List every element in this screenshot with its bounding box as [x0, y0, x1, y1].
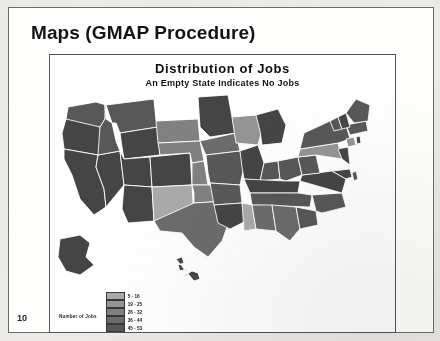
- legend-items: 5 - 1619 - 2526 - 3236 - 4445 - 5359 - 1…: [106, 292, 158, 333]
- legend-item: 45 - 53: [106, 324, 145, 332]
- legend-item: 5 - 16: [106, 292, 145, 300]
- legend-item: 26 - 32: [106, 308, 145, 316]
- chart-title: Distribution of Jobs: [50, 61, 395, 76]
- chart-subtitle: An Empty State Indicates No Jobs: [50, 78, 395, 88]
- legend-label: 5 - 16: [128, 294, 140, 299]
- page-title: Maps (GMAP Procedure): [31, 22, 256, 44]
- presentation-slide: Maps (GMAP Procedure) 10 Distribution of…: [8, 7, 434, 333]
- map-state-sd: South Dakota: [156, 119, 200, 143]
- map-state-mn: Minnesota: [198, 95, 236, 137]
- map-state-ks: Kansas: [192, 161, 208, 185]
- legend-title: Number of Jobs: [59, 314, 97, 319]
- map-state-ky: Kentucky: [244, 179, 300, 193]
- legend-swatch: [106, 292, 125, 300]
- map-state-ri: Rhode Island: [356, 136, 361, 144]
- map-state-il: Illinois: [240, 145, 264, 181]
- map-state-de: Delaware: [352, 171, 358, 181]
- map-state-hi: Hawaii: [176, 257, 200, 281]
- map-state-nd: North Dakota: [154, 97, 198, 121]
- legend-item: 36 - 44: [106, 316, 145, 324]
- scanned-page: Maps (GMAP Procedure) 10 Distribution of…: [0, 0, 440, 341]
- legend-label: 19 - 25: [128, 302, 142, 307]
- map-state-co: Colorado: [150, 153, 192, 187]
- legend-label: 26 - 32: [128, 310, 142, 315]
- legend-label: 36 - 44: [128, 318, 142, 323]
- map-state-az: Arizona: [122, 185, 154, 223]
- legend-swatch: [106, 332, 125, 333]
- states-layer: WashingtonOregonCaliforniaNevadaIdahoMon…: [58, 95, 370, 281]
- us-map-svg: WashingtonOregonCaliforniaNevadaIdahoMon…: [50, 89, 395, 297]
- legend-swatch: [106, 308, 125, 316]
- map-state-ct: Connecticut: [346, 137, 356, 147]
- map-state-ak: Alaska: [58, 235, 94, 275]
- map-state-me: Maine: [346, 99, 370, 123]
- legend-swatch: [106, 324, 125, 332]
- map-state-ar: Arkansas: [210, 183, 242, 205]
- map-state-fl: Florida: [290, 229, 320, 275]
- map-state-wy: Wyoming: [120, 127, 160, 159]
- legend-item: 59 - 107: [106, 332, 145, 333]
- map-state-nc: North Carolina: [312, 193, 346, 213]
- map-state-mo: Missouri: [206, 151, 244, 185]
- map-state-sc: South Carolina: [296, 207, 318, 229]
- legend-swatch: [106, 316, 125, 324]
- legend-swatch: [106, 300, 125, 308]
- map-state-wv: West Virginia: [298, 155, 320, 175]
- map-state-mi: Michigan: [256, 109, 286, 145]
- map-legend: Number of Jobs 5 - 1619 - 2526 - 3236 - …: [50, 309, 395, 323]
- slide-number: 10: [17, 313, 27, 323]
- legend-item: 19 - 25: [106, 300, 145, 308]
- chart-container: Distribution of Jobs An Empty State Indi…: [49, 54, 396, 333]
- legend-label: 45 - 53: [128, 326, 142, 331]
- choropleth-map: WashingtonOregonCaliforniaNevadaIdahoMon…: [50, 89, 395, 297]
